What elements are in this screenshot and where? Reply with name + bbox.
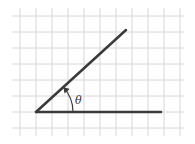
angle-label-theta: θ bbox=[75, 94, 82, 107]
grid bbox=[12, 8, 184, 136]
arrowhead-icon bbox=[63, 87, 69, 94]
angle-diagram: θ bbox=[0, 0, 195, 144]
